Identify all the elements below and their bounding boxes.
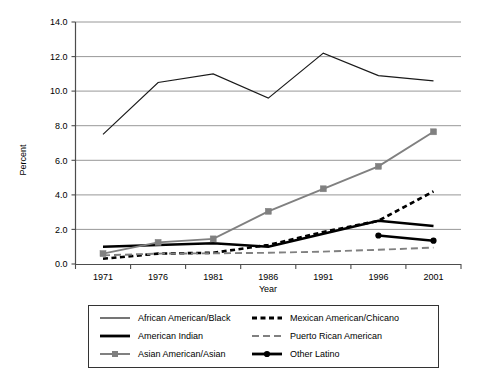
line-chart: 0.02.04.06.08.010.012.014.0 197119761981…: [0, 0, 483, 381]
y-tick-label: 8.0: [55, 121, 68, 131]
y-axis-title: Percent: [18, 144, 28, 176]
x-tick-label: 1981: [203, 272, 223, 282]
data-point-marker: [210, 236, 216, 242]
y-tick-label: 10.0: [50, 86, 68, 96]
legend-label: African American/Black: [138, 313, 231, 323]
legend-label: Other Latino: [290, 349, 340, 359]
data-point-marker: [431, 129, 437, 135]
data-point-marker: [320, 186, 326, 192]
legend-swatch-square-marker: [112, 351, 118, 357]
y-tick-label: 6.0: [55, 156, 68, 166]
legend-label: Asian American/Asian: [138, 349, 226, 359]
chart-background: [0, 0, 483, 381]
data-point-marker: [375, 232, 381, 238]
y-tick-label: 2.0: [55, 225, 68, 235]
y-tick-label: 14.0: [50, 17, 68, 27]
data-point-marker: [375, 163, 381, 169]
x-tick-label: 1971: [93, 272, 113, 282]
y-tick-label: 12.0: [50, 52, 68, 62]
x-tick-label: 2001: [423, 272, 443, 282]
data-point-marker: [265, 208, 271, 214]
legend-label: Mexican American/Chicano: [290, 313, 399, 323]
x-tick-label: 1996: [368, 272, 388, 282]
data-point-marker: [155, 239, 161, 245]
x-tick-label: 1986: [258, 272, 278, 282]
x-tick-label: 1976: [148, 272, 168, 282]
y-tick-label: 4.0: [55, 190, 68, 200]
chart-container: 0.02.04.06.08.010.012.014.0 197119761981…: [0, 0, 483, 381]
legend-label: American Indian: [138, 331, 203, 341]
legend-label: Puerto Rican American: [290, 331, 382, 341]
y-tick-label: 0.0: [55, 259, 68, 269]
data-point-marker: [430, 238, 436, 244]
x-axis-title: Year: [259, 284, 277, 294]
x-tick-label: 1991: [313, 272, 333, 282]
legend-swatch-round-marker: [264, 351, 270, 357]
